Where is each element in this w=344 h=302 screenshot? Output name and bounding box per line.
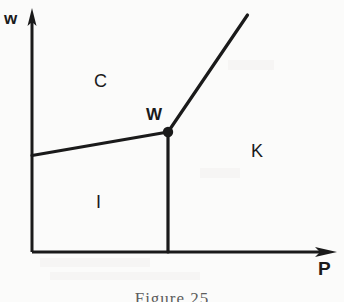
region-label-c: C — [94, 72, 107, 90]
figure-container: w P C I K W Figure 25 — [0, 0, 344, 302]
figure-caption: Figure 25 — [0, 289, 344, 302]
region-label-k: K — [251, 142, 263, 160]
triple-point-marker — [163, 127, 173, 137]
boundary-i-c-line — [32, 132, 168, 156]
y-axis-label: w — [4, 10, 17, 27]
phase-diagram-plot — [0, 0, 344, 302]
x-axis-label: P — [318, 259, 331, 278]
region-label-i: I — [96, 193, 101, 211]
triple-point-label: W — [146, 106, 162, 123]
boundary-c-k-line — [168, 15, 248, 132]
